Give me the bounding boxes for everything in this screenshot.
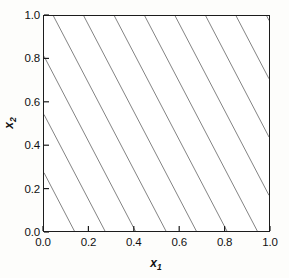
contour-line — [175, 16, 269, 195]
plot-area — [43, 15, 270, 232]
y-axis-tick-label: 0.0 — [25, 226, 40, 238]
x-axis-tick-label: 0.4 — [126, 236, 141, 248]
contour-line — [84, 16, 197, 231]
y-axis-label-base: x — [2, 122, 16, 129]
contour-lines-group — [44, 16, 269, 231]
x-axis-tick-label: 0.6 — [171, 236, 186, 248]
x-axis-label-base: x — [150, 256, 157, 270]
y-axis-label-subscript: 2 — [8, 117, 18, 122]
y-axis-tick-label: 0.4 — [25, 139, 40, 151]
contour-line — [44, 56, 135, 231]
y-axis-label: x2 — [2, 117, 18, 128]
contour-line — [53, 16, 166, 231]
contour-line — [206, 16, 269, 137]
contour-line — [267, 16, 269, 21]
x-axis-tick-label: 0.8 — [217, 236, 232, 248]
contour-line — [145, 16, 258, 231]
x-axis-tick-label: 1.0 — [262, 236, 277, 248]
x-axis-label: x1 — [150, 256, 161, 272]
y-axis-tick-label: 0.6 — [25, 96, 40, 108]
contour-line — [44, 173, 74, 231]
y-axis-tick-label: 0.8 — [25, 52, 40, 64]
contour-line — [236, 16, 269, 79]
x-axis-label-subscript: 1 — [157, 262, 162, 272]
x-axis-tick-label: 0.2 — [81, 236, 96, 248]
contour-plot-figure: x1 x2 0.00.20.40.60.81.00.00.20.40.60.81… — [0, 0, 289, 278]
y-axis-tick-label: 0.2 — [25, 183, 40, 195]
contour-line — [44, 114, 105, 231]
y-axis-tick-label: 1.0 — [25, 9, 40, 21]
contour-line — [114, 16, 227, 231]
